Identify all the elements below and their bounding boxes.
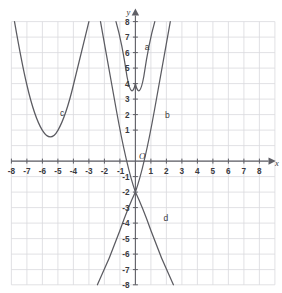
x-tick-label: 7 <box>242 167 247 176</box>
x-tick-label: -7 <box>23 167 31 176</box>
y-axis-name: y <box>126 7 131 17</box>
y-tick-label: -7 <box>122 266 130 275</box>
y-tick-label: -2 <box>122 188 130 197</box>
x-tick-label: 2 <box>164 167 169 176</box>
y-tick-label: 6 <box>125 49 130 58</box>
x-tick-label: 5 <box>211 167 216 176</box>
x-tick-label: 8 <box>257 167 262 176</box>
x-tick-label: -6 <box>39 167 47 176</box>
y-tick-label: 7 <box>125 33 130 42</box>
y-tick-label: -4 <box>122 219 130 228</box>
curve-label-d: d <box>164 213 169 223</box>
x-tick-label: -5 <box>54 167 62 176</box>
y-tick-label: -3 <box>122 204 130 213</box>
graph-screenshot: -8 -7 -6 -5 -4 -3 -2 -1 1 2 3 4 5 6 7 8 … <box>0 0 282 293</box>
y-tick-label: 4 <box>125 80 130 89</box>
x-tick-label: 4 <box>195 167 200 176</box>
y-axis <box>132 9 139 285</box>
origin-label: O <box>139 151 146 161</box>
x-tick-label: -3 <box>85 167 93 176</box>
y-tick-label: 8 <box>125 18 130 27</box>
y-axis-tick-labels: 8 7 6 5 4 3 2 1 -1 -2 -3 -4 -5 -6 -7 -8 <box>122 18 130 290</box>
x-axis-name: x <box>274 158 279 168</box>
coordinate-plane-figure: -8 -7 -6 -5 -4 -3 -2 -1 1 2 3 4 5 6 7 8 … <box>0 0 282 293</box>
x-tick-label: -8 <box>8 167 16 176</box>
y-tick-label: 5 <box>125 64 130 73</box>
y-tick-label: -1 <box>122 173 130 182</box>
x-tick-label: 3 <box>180 167 185 176</box>
y-tick-label: -5 <box>122 235 130 244</box>
curve-c <box>15 22 89 137</box>
y-tick-label: 2 <box>125 111 130 120</box>
x-tick-label: -4 <box>70 167 78 176</box>
y-tick-label: -6 <box>122 250 130 259</box>
curve-label-a: a <box>145 42 150 52</box>
x-tick-label: -2 <box>101 167 109 176</box>
y-tick-label: 3 <box>125 95 130 104</box>
x-tick-label: 1 <box>149 167 154 176</box>
y-tick-label: 1 <box>125 126 130 135</box>
curve-label-b: b <box>165 110 170 120</box>
y-tick-label: -8 <box>122 281 130 290</box>
x-tick-label: 6 <box>226 167 231 176</box>
